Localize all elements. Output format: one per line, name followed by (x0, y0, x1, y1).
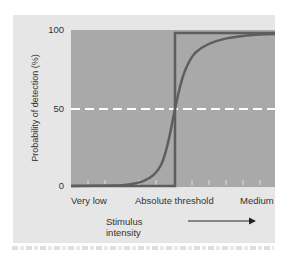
x-label-very-low: Very low (71, 195, 107, 206)
y-axis-label: Probability of detection (%) (30, 48, 40, 168)
y-tick-100: 100 (34, 24, 64, 35)
y-tick-0: 0 (34, 180, 64, 191)
stimulus-arrow-head-icon (249, 218, 256, 225)
faded-caption-text (12, 246, 274, 250)
plot-area (13, 15, 275, 243)
x-axis-title: Stimulus intensity (106, 216, 142, 238)
x-axis-title-line1: Stimulus (106, 216, 142, 227)
x-axis-title-line2: intensity (106, 227, 142, 238)
x-label-medium: Medium (240, 195, 274, 206)
chart-panel: 100 50 0 Probability of detection (%) Ve… (13, 15, 275, 243)
x-label-absolute-threshold: Absolute threshold (135, 195, 214, 206)
